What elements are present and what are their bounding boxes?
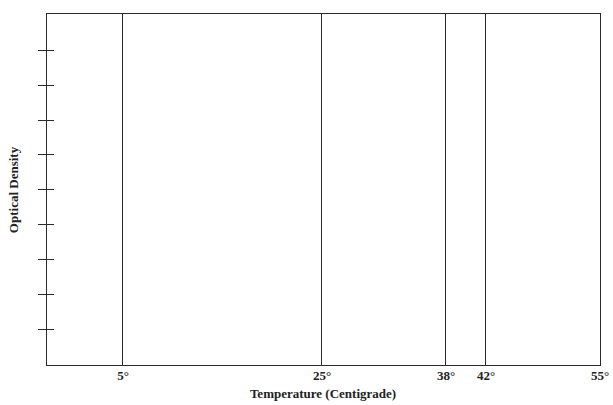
- plot-area-frame: [46, 13, 601, 366]
- vertical-line-5: [122, 13, 123, 366]
- vertical-line-25: [321, 13, 322, 366]
- y-tick: [38, 224, 54, 225]
- y-axis-label: Optical Density: [6, 147, 22, 233]
- y-tick: [38, 189, 54, 190]
- x-tick-label-55: 55°: [591, 368, 609, 384]
- y-tick: [38, 259, 54, 260]
- y-tick: [38, 85, 54, 86]
- x-tick-label-38: 38°: [437, 368, 455, 384]
- vertical-line-38: [445, 13, 446, 366]
- y-tick: [38, 294, 54, 295]
- x-axis-label: Temperature (Centigrade): [250, 386, 396, 402]
- x-tick-label-5: 5°: [117, 368, 129, 384]
- y-tick: [38, 50, 54, 51]
- x-tick-label-42: 42°: [477, 368, 495, 384]
- chart: 5° 25° 38° 42° 55° Temperature (Centigra…: [0, 0, 613, 405]
- vertical-line-42: [485, 13, 486, 366]
- y-tick: [38, 154, 54, 155]
- y-tick: [38, 329, 54, 330]
- y-tick: [38, 120, 54, 121]
- x-tick-label-25: 25°: [313, 368, 331, 384]
